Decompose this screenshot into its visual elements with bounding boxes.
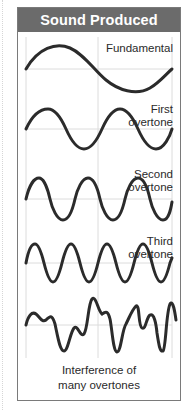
first-overtone-label-line2: overtone (128, 116, 173, 129)
second-overtone-label-line2: overtone (128, 181, 173, 194)
second-overtone-label-line1: Second (128, 168, 173, 181)
fundamental-label: Fundamental (106, 42, 173, 55)
margin-dotted-line (2, 0, 3, 410)
fundamental-label-text: Fundamental (106, 42, 173, 55)
third-overtone-label: Third overtone (128, 235, 173, 261)
first-overtone-label: First overtone (128, 103, 173, 129)
caption-line2: many overtones (18, 378, 180, 393)
caption-line1: Interference of (18, 363, 180, 378)
sound-produced-panel: Sound Produced Fundamental (17, 7, 181, 401)
first-overtone-label-line1: First (128, 103, 173, 116)
third-overtone-label-line1: Third (128, 235, 173, 248)
third-overtone-label-line2: overtone (128, 248, 173, 261)
interference-caption: Interference of many overtones (18, 363, 180, 393)
waveforms-diagram (18, 8, 182, 402)
second-overtone-label: Second overtone (128, 168, 173, 194)
